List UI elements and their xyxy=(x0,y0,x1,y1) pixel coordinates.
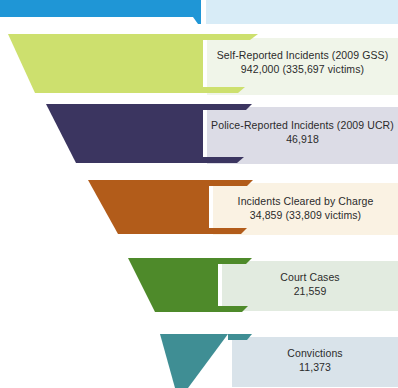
stage-title-incidents-cleared-by-charge: Incidents Cleared by Charge xyxy=(213,194,398,208)
stage-band-top-band-cropped xyxy=(0,0,201,17)
stage-title-court-cases: Court Cases xyxy=(222,270,398,284)
stage-band-bottom-tab-incidents-cleared-by-charge xyxy=(209,228,247,234)
stage-title-convictions: Convictions xyxy=(232,346,398,360)
stage-text-convictions: Convictions 11,373 xyxy=(232,346,398,374)
stage-band-self-reported-incidents xyxy=(8,34,203,93)
stage-value-court-cases: 21,559 xyxy=(222,284,398,298)
stage-band-bottom-tab-police-reported-incidents xyxy=(203,157,244,163)
stage-value-convictions: 11,373 xyxy=(232,360,398,374)
stage-text-incidents-cleared-by-charge: Incidents Cleared by Charge 34,859 (33,8… xyxy=(213,194,398,222)
stage-band-top-tab-incidents-cleared-by-charge xyxy=(209,180,253,186)
stage-band-top-tab-self-reported-incidents xyxy=(203,34,258,40)
stage-value-self-reported-incidents: 942,000 (335,697 victims) xyxy=(207,62,398,76)
stage-panel-top-band-cropped xyxy=(206,0,398,24)
stage-title-police-reported-incidents: Police-Reported Incidents (2009 UCR) xyxy=(207,118,398,132)
stage-value-police-reported-incidents: 46,918 xyxy=(207,132,398,146)
stage-value-incidents-cleared-by-charge: 34,859 (33,809 victims) xyxy=(213,208,398,222)
stage-text-court-cases: Court Cases 21,559 xyxy=(222,270,398,298)
stage-text-police-reported-incidents: Police-Reported Incidents (2009 UCR) 46,… xyxy=(207,118,398,146)
stage-title-self-reported-incidents: Self-Reported Incidents (2009 GSS) xyxy=(207,48,398,62)
stage-text-self-reported-incidents: Self-Reported Incidents (2009 GSS) 942,0… xyxy=(207,48,398,76)
stage-band-top-tab-court-cases xyxy=(218,258,252,264)
stage-band-bottom-tab-self-reported-incidents xyxy=(203,87,245,93)
stage-band-top-tab-police-reported-incidents xyxy=(203,104,252,110)
